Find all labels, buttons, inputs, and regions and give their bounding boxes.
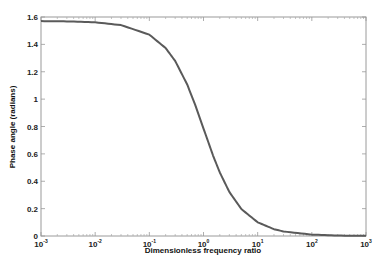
y-tick-label: 0.2 (27, 205, 39, 214)
x-tick-label: 102 (306, 238, 318, 249)
y-tick-label: 0.8 (27, 123, 39, 132)
y-tick-label: 1 (34, 95, 39, 104)
y-tick-label: 0.4 (27, 177, 39, 186)
phase-angle-chart: 10-310-210-1100101102103 00.20.40.60.811… (0, 0, 390, 269)
x-axis-title: Dimensionless frequency ratio (145, 246, 262, 255)
y-tick-label: 1.6 (27, 13, 39, 22)
y-axis-title: Phase angle (radians) (8, 85, 17, 168)
y-tick-label: 1.4 (27, 40, 39, 49)
y-tick-labels: 00.20.40.60.811.21.41.6 (27, 13, 39, 241)
x-tick-label: 103 (360, 238, 372, 249)
x-tick-label: 10-2 (88, 238, 102, 249)
y-tick-label: 0.6 (27, 150, 39, 159)
y-tick-label: 0 (34, 232, 39, 241)
y-tick-label: 1.2 (27, 68, 39, 77)
